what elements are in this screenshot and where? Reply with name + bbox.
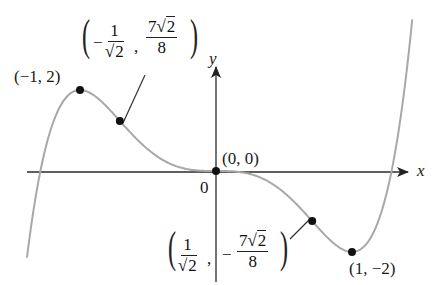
comma: , xyxy=(134,38,138,55)
lparen: ( xyxy=(82,14,90,58)
data-point xyxy=(76,86,84,94)
y-axis-label: y xyxy=(209,50,217,67)
data-point xyxy=(308,217,316,225)
fraction-y: 7√2 8 xyxy=(146,18,177,57)
x-axis-label: x xyxy=(417,162,425,179)
fraction-x: 1 √2 xyxy=(178,236,197,275)
label-origin-point: (0, 0) xyxy=(222,150,259,167)
minus-sign: − xyxy=(222,246,232,263)
minus-sign: − xyxy=(93,34,103,51)
fraction-x: 1 √2 xyxy=(105,22,124,61)
comma: , xyxy=(207,250,211,267)
data-point xyxy=(348,248,356,256)
leader-line-left xyxy=(123,75,145,123)
data-point xyxy=(212,167,220,175)
data-point xyxy=(116,117,124,125)
label-local-min: (1, −2) xyxy=(349,260,395,277)
lparen: ( xyxy=(168,226,176,270)
rparen: ) xyxy=(280,226,288,270)
fraction-y: 7√2 8 xyxy=(237,232,268,271)
origin-tick-label: 0 xyxy=(200,179,209,196)
rparen: ) xyxy=(190,14,198,58)
leader-line-right xyxy=(290,219,310,239)
plot-area xyxy=(0,0,433,285)
label-local-max: (−1, 2) xyxy=(14,68,60,85)
